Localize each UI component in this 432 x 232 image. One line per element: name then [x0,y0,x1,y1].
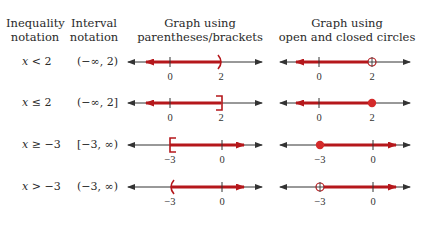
row-1-bracket-graph: 0 2 [128,55,262,82]
tick-label: −3 [164,154,175,165]
tick-label: 2 [369,112,374,123]
row-3-circle-graph: −3 0 [280,140,410,165]
tick-label: 2 [218,112,223,123]
row-4-circle-graph: −3 0 [280,182,410,207]
row-2-bracket-graph: 0 2 [128,96,262,123]
row-2-circle-graph: 0 2 [280,98,410,123]
closed-circle-icon [316,141,324,149]
number-line-figures: 0 2 0 2 0 2 0 2 −3 0 [0,0,432,232]
tick-label: −3 [164,196,175,207]
tick-label: 0 [370,154,375,165]
tick-label: 0 [370,196,375,207]
tick-label: −3 [314,196,325,207]
row-4-bracket-graph: −3 0 [128,180,262,207]
row-1-circle-graph: 0 2 [280,57,410,82]
tick-label: −3 [314,154,325,165]
tick-label: 0 [316,71,321,82]
tick-label: 2 [369,71,374,82]
tick-label: 0 [219,154,224,165]
tick-label: 0 [167,112,172,123]
closed-circle-icon [368,99,376,107]
tick-label: 0 [316,112,321,123]
tick-label: 0 [167,71,172,82]
tick-label: 0 [219,196,224,207]
tick-label: 2 [218,71,223,82]
row-3-bracket-graph: −3 0 [128,138,262,165]
